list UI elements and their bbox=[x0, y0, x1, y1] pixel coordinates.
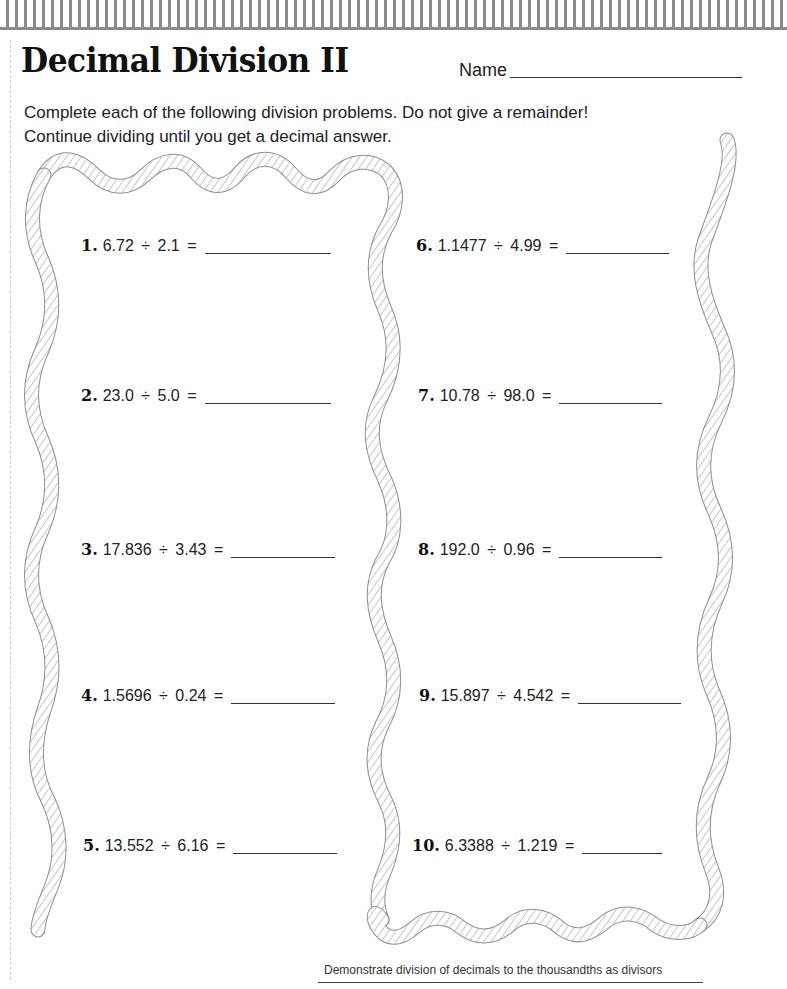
problem-number: 7. bbox=[418, 386, 435, 405]
footer-rule bbox=[318, 982, 703, 983]
problem-expression: 23.0 ÷ 5.0 = bbox=[103, 387, 197, 405]
answer-field-3[interactable] bbox=[231, 557, 335, 558]
problem-number: 3. bbox=[81, 540, 98, 559]
problem-number: 6. bbox=[416, 236, 433, 255]
problem-number: 8. bbox=[418, 540, 435, 559]
problem-1: 1. 6.72 ÷ 2.1 = bbox=[81, 236, 331, 255]
problem-number: 5. bbox=[83, 836, 100, 855]
problem-8: 8. 192.0 ÷ 0.96 = bbox=[418, 540, 662, 559]
right-rope-icon bbox=[374, 140, 729, 937]
problem-expression: 6.3388 ÷ 1.219 = bbox=[445, 837, 574, 855]
problem-expression: 17.836 ÷ 3.43 = bbox=[103, 541, 224, 559]
answer-field-8[interactable] bbox=[559, 557, 662, 558]
problem-number: 2. bbox=[81, 386, 98, 405]
problem-10: 10. 6.3388 ÷ 1.219 = bbox=[412, 836, 662, 855]
problem-number: 10. bbox=[412, 836, 440, 855]
problem-expression: 6.72 ÷ 2.1 = bbox=[103, 237, 197, 255]
footer-objective: Demonstrate division of decimals to the … bbox=[324, 963, 662, 977]
problem-number: 9. bbox=[419, 686, 436, 705]
answer-field-7[interactable] bbox=[559, 403, 662, 404]
problem-2: 2. 23.0 ÷ 5.0 = bbox=[81, 386, 331, 405]
problem-3: 3. 17.836 ÷ 3.43 = bbox=[81, 540, 335, 559]
answer-field-1[interactable] bbox=[205, 253, 331, 254]
problem-5: 5. 13.552 ÷ 6.16 = bbox=[83, 836, 337, 855]
problem-expression: 1.1477 ÷ 4.99 = bbox=[438, 237, 559, 255]
problem-expression: 192.0 ÷ 0.96 = bbox=[440, 541, 552, 559]
problem-6: 6. 1.1477 ÷ 4.99 = bbox=[416, 236, 669, 255]
answer-field-10[interactable] bbox=[582, 853, 662, 854]
problem-number: 1. bbox=[81, 236, 98, 255]
problem-expression: 15.897 ÷ 4.542 = bbox=[441, 687, 570, 705]
answer-field-4[interactable] bbox=[231, 703, 335, 704]
problem-number: 4. bbox=[81, 686, 98, 705]
problem-7: 7. 10.78 ÷ 98.0 = bbox=[418, 386, 662, 405]
problem-4: 4. 1.5696 ÷ 0.24 = bbox=[81, 686, 335, 705]
answer-field-2[interactable] bbox=[205, 403, 331, 404]
problem-expression: 13.552 ÷ 6.16 = bbox=[105, 837, 226, 855]
problem-expression: 1.5696 ÷ 0.24 = bbox=[103, 687, 224, 705]
answer-field-9[interactable] bbox=[578, 703, 681, 704]
problem-expression: 10.78 ÷ 98.0 = bbox=[440, 387, 552, 405]
answer-field-6[interactable] bbox=[566, 253, 669, 254]
answer-field-5[interactable] bbox=[233, 853, 337, 854]
problem-9: 9. 15.897 ÷ 4.542 = bbox=[419, 686, 681, 705]
